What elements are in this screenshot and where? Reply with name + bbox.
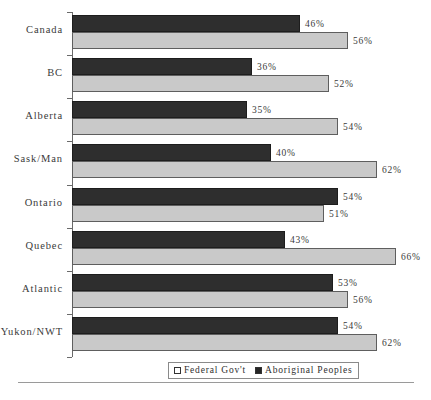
bar-dark (72, 188, 338, 205)
plot-area: Canada46%56%BC36%52%Alberta35%54%Sask/Ma… (72, 12, 397, 357)
bar-group: BC36%52% (72, 56, 397, 99)
category-label: Quebec (26, 240, 63, 251)
bar-group: Canada46%56% (72, 13, 397, 56)
bar-value-label: 56% (353, 295, 373, 305)
bar-value-label: 62% (382, 165, 402, 175)
bar-light (72, 248, 396, 265)
category-label: BC (47, 67, 63, 78)
legend-swatch-icon (174, 367, 181, 374)
bar-value-label: 35% (252, 105, 272, 115)
bar-value-label: 52% (334, 79, 354, 89)
bar-value-label: 43% (290, 235, 310, 245)
grouped-bar-chart: Canada46%56%BC36%52%Alberta35%54%Sask/Ma… (0, 0, 431, 400)
bar-value-label: 54% (343, 122, 363, 132)
bar-value-label: 51% (329, 209, 349, 219)
bar-light (72, 161, 377, 178)
bar-group: Alberta35%54% (72, 99, 397, 142)
category-label: Sask/Man (14, 153, 63, 164)
bar-dark (72, 101, 247, 118)
bar-value-label: 36% (257, 62, 277, 72)
bar-group: Sask/Man40%62% (72, 142, 397, 185)
bar-value-label: 62% (382, 338, 402, 348)
bar-value-label: 40% (276, 148, 296, 158)
legend-item-aboriginal-peoples: Aboriginal Peoples (255, 365, 353, 375)
bar-value-label: 53% (338, 278, 358, 288)
bar-dark (72, 15, 300, 32)
category-label: Yukon/NWT (1, 326, 63, 337)
bar-dark (72, 274, 333, 291)
bar-light (72, 291, 348, 308)
legend-label: Federal Gov't (184, 365, 246, 375)
legend-swatch-icon (255, 367, 262, 374)
bar-value-label: 46% (305, 19, 325, 29)
bar-dark (72, 144, 271, 161)
bar-dark (72, 231, 285, 248)
category-label: Alberta (25, 110, 63, 121)
bar-light (72, 205, 324, 222)
bar-value-label: 56% (353, 36, 373, 46)
bar-value-label: 66% (401, 252, 421, 262)
bar-value-label: 54% (343, 192, 363, 202)
bar-dark (72, 317, 338, 334)
bar-value-label: 54% (343, 321, 363, 331)
category-label: Ontario (25, 197, 63, 208)
legend-item-federal-govt: Federal Gov't (174, 365, 246, 375)
bar-dark (72, 58, 252, 75)
bar-light (72, 75, 329, 92)
chart-legend: Federal Gov't Aboriginal Peoples (168, 362, 359, 379)
footer-divider (18, 382, 414, 383)
category-label: Canada (26, 24, 63, 35)
bar-light (72, 118, 338, 135)
bar-light (72, 334, 377, 351)
legend-label: Aboriginal Peoples (265, 365, 353, 375)
bar-group: Atlantic53%56% (72, 272, 397, 315)
bar-group: Ontario54%51% (72, 186, 397, 229)
bar-light (72, 32, 348, 49)
category-label: Atlantic (22, 283, 63, 294)
bar-group: Quebec43%66% (72, 229, 397, 272)
bar-group: Yukon/NWT54%62% (72, 315, 397, 358)
